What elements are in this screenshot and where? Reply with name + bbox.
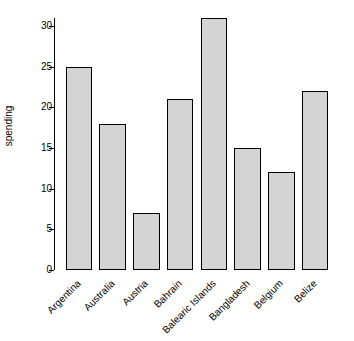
y-tick-label: 0 xyxy=(10,265,52,275)
y-tick-label: 5 xyxy=(10,224,52,234)
y-tick-label: 25 xyxy=(10,62,52,72)
y-tick-label: 20 xyxy=(10,102,52,112)
bar xyxy=(234,148,260,270)
bar-series xyxy=(62,18,332,270)
y-tick-label: 10 xyxy=(10,184,52,194)
bar xyxy=(133,213,159,270)
bar xyxy=(99,124,125,270)
y-axis-title: spending xyxy=(3,66,14,186)
plot-area xyxy=(62,18,332,270)
bar xyxy=(66,67,92,270)
bar xyxy=(167,99,193,270)
y-tick-label: 30 xyxy=(10,21,52,31)
bar xyxy=(201,18,227,270)
y-axis-line xyxy=(54,18,55,270)
bar xyxy=(268,172,294,270)
y-tick-label: 15 xyxy=(10,143,52,153)
bar-chart: spending 051015202530 ArgentinaAustralia… xyxy=(0,0,354,341)
bar xyxy=(302,91,328,270)
